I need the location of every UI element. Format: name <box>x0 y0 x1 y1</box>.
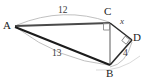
segment-AB <box>15 27 110 65</box>
figure-canvas <box>0 0 147 84</box>
length-label-4: 4 <box>123 49 128 59</box>
vertex-label-C: C <box>104 6 111 17</box>
vertex-label-D: D <box>133 32 141 43</box>
right-angle-marker-C <box>104 24 110 31</box>
vertex-label-B: B <box>106 68 113 79</box>
length-label-12: 12 <box>58 6 68 16</box>
variable-label-x: x <box>120 17 124 26</box>
geometry-figure: A C D B 12 13 4 x <box>0 0 147 84</box>
arc-outer-helper <box>96 56 140 70</box>
length-label-13: 13 <box>52 49 62 59</box>
segment-AC <box>15 23 110 26</box>
vertex-label-A: A <box>3 20 11 31</box>
